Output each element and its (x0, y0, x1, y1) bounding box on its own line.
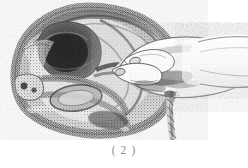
figure-page: Obstetric procedure illustration, figure… (0, 0, 248, 168)
paper-tone-overlay (0, 0, 248, 140)
illustration: Obstetric procedure illustration, figure… (0, 0, 248, 140)
figure-caption-row: ( 2 ) (0, 138, 248, 164)
illustration-svg: Obstetric procedure illustration, figure… (0, 0, 248, 140)
figure-caption: ( 2 ) (112, 145, 137, 157)
